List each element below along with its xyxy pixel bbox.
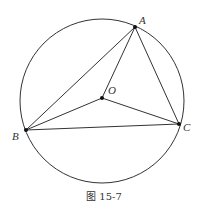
segment-bc xyxy=(26,124,179,130)
label-a: A xyxy=(138,14,146,26)
point-o-dot xyxy=(100,96,104,100)
label-c: C xyxy=(183,121,191,133)
figure-caption: 图 15-7 xyxy=(86,191,122,202)
segment-ac xyxy=(135,27,179,124)
segment-oc xyxy=(102,98,179,124)
geometry-figure: A O B C 图 15-7 xyxy=(0,0,201,210)
circumcircle xyxy=(20,19,184,183)
label-b: B xyxy=(12,130,19,142)
segment-ab xyxy=(26,27,135,130)
point-a-dot xyxy=(133,25,137,29)
point-b-dot xyxy=(24,128,28,132)
label-o: O xyxy=(108,84,116,96)
segment-ob xyxy=(26,98,102,130)
point-c-dot xyxy=(177,122,181,126)
segment-oa xyxy=(102,27,135,98)
